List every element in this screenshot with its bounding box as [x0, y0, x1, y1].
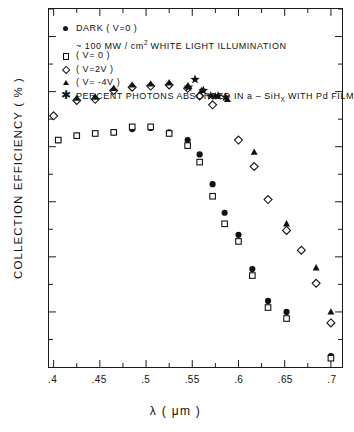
data-point: [50, 112, 58, 120]
data-point: [148, 124, 154, 130]
data-point: [328, 355, 334, 361]
data-point: [264, 196, 272, 204]
data-point: [222, 210, 228, 216]
series-filled-triangle: [73, 79, 334, 314]
legend-abs-subscript: X: [280, 96, 284, 103]
data-point: [283, 220, 290, 226]
legend-item-vminus4: ( V= -4V ): [62, 76, 342, 90]
x-tick-label: .55: [172, 374, 212, 385]
data-point: [210, 193, 216, 199]
data-point: [283, 226, 291, 234]
data-point: [129, 124, 135, 130]
data-point: [327, 308, 334, 314]
data-point: [197, 159, 203, 165]
x-tick-label: .5: [126, 374, 166, 385]
x-tick-label: .65: [265, 374, 305, 385]
data-point: [92, 131, 98, 137]
data-point: [250, 273, 256, 279]
x-tick-label: .4: [33, 374, 73, 385]
data-point: [312, 279, 320, 287]
legend-abs-rest: WITH Pd FILM: [288, 91, 354, 101]
legend-item-illumination: ~ 100 MW / cm2 WHITE LIGHT ILLUMINATION: [62, 36, 342, 50]
data-point: [250, 163, 258, 171]
legend-label-v0: ( V= 0 ): [76, 49, 110, 63]
data-point: [283, 309, 289, 315]
data-point: [249, 266, 255, 272]
data-point: [284, 316, 290, 322]
data-point: [185, 143, 191, 149]
data-point: [197, 151, 203, 157]
series-filled-circle: [55, 125, 334, 359]
data-point: [313, 264, 320, 270]
x-tick-label: .6: [219, 374, 259, 385]
legend-item-v2: ( V=2V ): [62, 63, 342, 77]
y-axis-title: COLLECTION EFFICIENCY ( % ): [12, 28, 24, 328]
legend-label-absorbed: PERCENT PHOTONS ABSORBED IN a – SiHX WIT…: [76, 90, 354, 106]
legend-illum-rest: WHITE LIGHT ILLUMINATION: [151, 41, 287, 51]
data-point: [265, 298, 271, 304]
data-point: [185, 137, 191, 143]
series-open-diamond: [50, 81, 335, 327]
legend-item-dark: DARK ( V=0 ): [62, 22, 342, 36]
data-point: [222, 221, 228, 227]
data-point: [74, 133, 80, 139]
legend-abs-prefix: PERCENT PHOTONS ABSORBED IN a – SiH: [76, 91, 280, 101]
data-point: [251, 148, 258, 154]
legend-illum-superscript: 2: [144, 39, 148, 46]
x-tick-label: .45: [79, 374, 119, 385]
data-point: [236, 239, 242, 245]
legend-item-absorbed: ✱ PERCENT PHOTONS ABSORBED IN a – SiHX W…: [62, 90, 342, 104]
legend: DARK ( V=0 ) ~ 100 MW / cm2 WHITE LIGHT …: [62, 22, 342, 104]
x-tick-label: .7: [312, 374, 352, 385]
data-point: [297, 246, 305, 254]
series-open-square: [55, 124, 333, 361]
data-point: [111, 130, 117, 136]
data-point: [327, 319, 335, 327]
data-point: [55, 137, 61, 143]
data-point: [235, 232, 241, 238]
legend-label-vminus4: ( V= -4V ): [76, 76, 120, 90]
data-point: [166, 131, 172, 137]
data-point: [210, 181, 216, 187]
legend-label-v2: ( V=2V ): [76, 63, 114, 77]
data-point: [265, 305, 271, 311]
data-point: [235, 136, 243, 144]
legend-label-dark: DARK ( V=0 ): [76, 22, 137, 36]
x-axis-title: λ ( μm ): [0, 404, 351, 418]
